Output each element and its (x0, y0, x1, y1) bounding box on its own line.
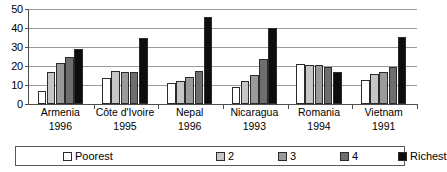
y-axis-tick-label: 10 (11, 80, 23, 91)
bar (176, 81, 185, 104)
category-name: Nicaragua (222, 106, 287, 120)
legend-label: Poorest (75, 151, 113, 162)
x-axis-category-label: Armenia1996 (28, 106, 93, 133)
bar (47, 72, 56, 104)
bar-group (102, 9, 147, 104)
category-name: Vietnam (351, 106, 416, 120)
bar (379, 72, 388, 104)
bar-group (296, 9, 341, 104)
bar (38, 91, 47, 104)
category-name: Armenia (28, 106, 93, 120)
bar (333, 72, 342, 104)
chart-legend: Poorest234Richest (15, 146, 405, 166)
bar (361, 80, 370, 104)
bar (370, 74, 379, 104)
category-year: 1996 (157, 120, 222, 134)
legend-item[interactable]: 3 (278, 147, 296, 165)
category-name: Nepal (157, 106, 222, 120)
bar-group (361, 9, 406, 104)
plot-area: 01020304050 Armenia1996Côte d'Ivoire1995… (0, 0, 420, 138)
legend-item[interactable]: 2 (216, 147, 234, 165)
bar (185, 77, 194, 104)
category-year: 1996 (28, 120, 93, 134)
legend-label: 3 (290, 151, 296, 162)
y-axis-tick-label: 20 (11, 61, 23, 72)
category-name: Romania (287, 106, 352, 120)
bar (130, 72, 139, 104)
x-axis-tickmark (417, 104, 418, 109)
legend-item[interactable]: Poorest (63, 147, 113, 165)
bar (139, 38, 148, 104)
legend-label: 2 (228, 151, 234, 162)
bar (102, 78, 111, 104)
x-axis-category-label: Côte d'Ivoire1995 (93, 106, 158, 133)
bar (65, 57, 74, 104)
category-year: 1993 (222, 120, 287, 134)
category-name: Côte d'Ivoire (93, 106, 158, 120)
bar (241, 81, 250, 104)
y-axis-tick-label: 40 (11, 23, 23, 34)
bar (195, 71, 204, 104)
bar (204, 17, 213, 104)
bar (74, 49, 83, 104)
y-axis-tickmark (25, 104, 29, 105)
bar (259, 59, 268, 104)
x-axis-category-label: Nepal1996 (157, 106, 222, 133)
bar (167, 83, 176, 104)
category-year: 1994 (287, 120, 352, 134)
bar (296, 64, 305, 104)
x-axis-category-labels: Armenia1996Côte d'Ivoire1995Nepal1996Nic… (28, 106, 416, 138)
legend-swatch-icon (278, 152, 287, 161)
legend-swatch-icon (63, 152, 72, 161)
y-axis-tick-labels: 01020304050 (0, 0, 26, 106)
bar (389, 67, 398, 104)
y-axis-tick-label: 50 (11, 4, 23, 15)
bar (250, 75, 259, 104)
bar-group (38, 9, 83, 104)
y-axis-tick-label: 30 (11, 42, 23, 53)
bar (232, 87, 241, 104)
bar (56, 63, 65, 104)
category-year: 1991 (351, 120, 416, 134)
legend-swatch-icon (216, 152, 225, 161)
bar (111, 71, 120, 104)
bars-layer (28, 9, 416, 104)
bar (305, 65, 314, 104)
bar (121, 72, 130, 104)
legend-label: 4 (352, 151, 358, 162)
x-axis-category-label: Vietnam1991 (351, 106, 416, 133)
legend-item[interactable]: Richest (398, 147, 447, 165)
legend-item[interactable]: 4 (340, 147, 358, 165)
legend-label: Richest (410, 151, 447, 162)
bar (324, 67, 333, 104)
legend-swatch-icon (340, 152, 349, 161)
x-axis-category-label: Nicaragua1993 (222, 106, 287, 133)
x-axis-category-label: Romania1994 (287, 106, 352, 133)
y-axis-tick-label: 0 (17, 99, 23, 110)
bar (315, 65, 324, 104)
bar-group (232, 9, 277, 104)
bar (268, 28, 277, 104)
category-year: 1995 (93, 120, 158, 134)
bar-group (167, 9, 212, 104)
bar (398, 37, 407, 104)
legend-swatch-icon (398, 152, 407, 161)
